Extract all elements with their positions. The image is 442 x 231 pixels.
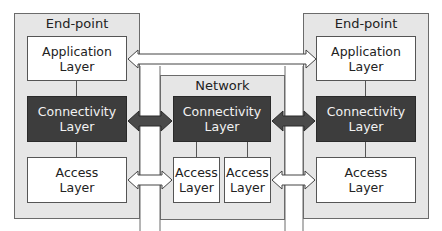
gap-band-right (285, 66, 303, 231)
gap-band-left (140, 66, 160, 231)
connection-arrows (0, 0, 442, 231)
